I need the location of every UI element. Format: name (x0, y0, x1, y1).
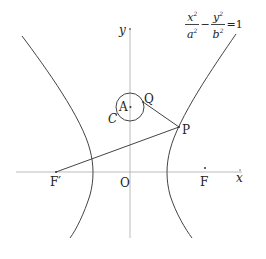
exponent: 2 (220, 27, 224, 34)
point-q-label: Q (144, 93, 154, 105)
segment-fprime-p (56, 127, 179, 172)
focus-f-label: F (200, 176, 208, 188)
point-p-dot (178, 126, 180, 128)
hyperbola-equation: x2 a2 − y2 b2 =1 (184, 8, 243, 40)
exponent: 2 (193, 10, 197, 17)
circle-c-label: C (108, 113, 117, 125)
origin-label: O (120, 177, 130, 189)
exponent: 2 (194, 27, 198, 34)
equals-one: =1 (226, 18, 242, 31)
point-a-dot (130, 106, 132, 108)
minus-sign: − (200, 18, 209, 31)
y-axis-arrow-dot (129, 28, 131, 30)
x-axis-label: x (236, 172, 243, 184)
hyperbola-right-branch (167, 34, 236, 238)
exponent: 2 (219, 10, 223, 17)
point-p-label: P (182, 124, 190, 136)
point-a-label: A (119, 101, 128, 113)
point-f-dot (204, 167, 206, 169)
point-fprime-dot (55, 171, 57, 173)
y-axis-label: y (119, 24, 126, 36)
hyperbola-left-branch (22, 36, 93, 238)
b-denominator: b (213, 27, 220, 40)
x-fraction: x2 a2 (185, 8, 199, 40)
diagram-canvas: x2 a2 − y2 b2 =1 y x O F F′ A Q P C (0, 0, 266, 259)
focus-fprime-label: F′ (50, 176, 61, 188)
y-fraction: y2 b2 (211, 8, 226, 40)
